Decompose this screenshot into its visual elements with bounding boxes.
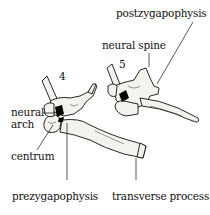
label-postzygapophysis: postzygapophysis [116, 8, 207, 19]
label-prezygapophysis: prezygapophysis [12, 191, 98, 202]
vertebra-number-4: 4 [59, 71, 65, 82]
label-neural-arch-line2: arch [11, 119, 34, 130]
vertebrae-diagram: postzygapophysis neural spine 5 4 neural… [0, 0, 210, 215]
label-neural-arch-line1: neural [11, 107, 44, 118]
vertebra-number-5: 5 [119, 59, 125, 70]
label-centrum: centrum [11, 151, 54, 162]
label-transverse-process: transverse process [112, 191, 209, 202]
label-neural-spine: neural spine [102, 40, 166, 51]
